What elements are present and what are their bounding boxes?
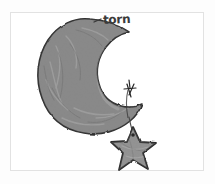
star-attachment-dot — [131, 133, 135, 137]
moon-star-drawing — [0, 0, 215, 184]
moon-texture — [30, 10, 160, 140]
crescent-moon — [30, 10, 160, 140]
moon-seam-line — [127, 90, 129, 118]
stitch-knot-mark — [124, 80, 136, 97]
annotation-label-torn: torn — [103, 12, 131, 27]
sketch-scene: torn — [0, 0, 215, 184]
